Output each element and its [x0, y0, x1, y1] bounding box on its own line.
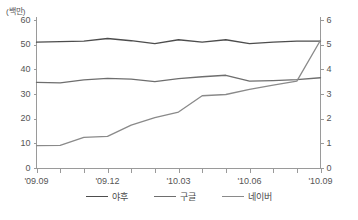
legend-item-구글[interactable]: 구글 — [154, 190, 196, 203]
x-axis-ticks — [38, 169, 322, 173]
y-axis-left-tick-label: 20 — [9, 113, 31, 123]
legend-item-네이버[interactable]: 네이버 — [222, 190, 272, 203]
y-axis-right-tick-label: 6 — [327, 15, 347, 25]
legend-label: 야후 — [112, 190, 128, 203]
x-axis-tick-label: '10.03 — [156, 176, 202, 186]
x-axis-tick-label: '09.09 — [14, 176, 60, 186]
plot-area — [0, 0, 358, 220]
y-axis-right-tick-label: 5 — [327, 39, 347, 49]
legend-line-swatch-icon — [154, 196, 176, 197]
x-axis-tick-label: '10.09 — [298, 176, 344, 186]
y-axis-right-tick-label: 4 — [327, 64, 347, 74]
y-axis-right-tick-label: 2 — [327, 113, 347, 123]
y-axis-left-tick-label: 0 — [9, 163, 31, 173]
y-axis-right-tick-label: 0 — [327, 163, 347, 173]
x-axis-tick-label: '09.12 — [85, 176, 131, 186]
series-line-야후 — [37, 39, 321, 44]
legend-label: 네이버 — [248, 190, 272, 203]
y-axis-left-tick-label: 30 — [9, 89, 31, 99]
y-axis-left-tick-label: 40 — [9, 64, 31, 74]
legend-line-swatch-icon — [222, 196, 244, 197]
y-axis-right-tick-label: 3 — [327, 89, 347, 99]
y-axis-left-tick-label: 60 — [9, 15, 31, 25]
chart-legend: 야후구글네이버 — [0, 190, 358, 203]
line-chart: (백만) 0102030405060 0123456 '09.09'09.12'… — [0, 0, 358, 220]
legend-label: 구글 — [180, 190, 196, 203]
x-axis-tick-label: '10.06 — [227, 176, 273, 186]
y-axis-right-tick-label: 1 — [327, 138, 347, 148]
y-axis-left-tick-label: 10 — [9, 138, 31, 148]
legend-line-swatch-icon — [86, 196, 108, 197]
series-line-네이버 — [37, 40, 321, 145]
legend-item-야후[interactable]: 야후 — [86, 190, 128, 203]
series-line-구글 — [37, 75, 321, 83]
data-series-group — [37, 39, 321, 146]
y-axis-left-tick-label: 50 — [9, 39, 31, 49]
